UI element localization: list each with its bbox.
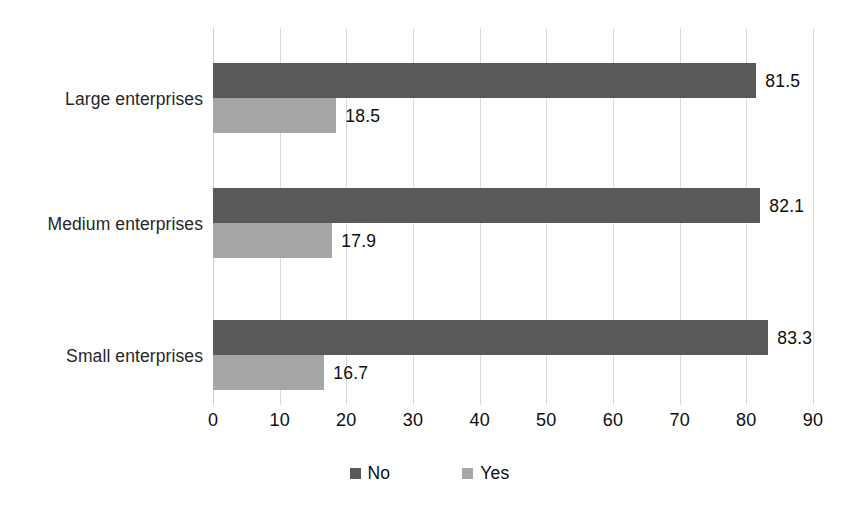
xtick-30: 30 <box>403 410 423 431</box>
xtick-90: 90 <box>803 410 823 431</box>
bar-medium-yes[interactable] <box>213 223 332 258</box>
legend-swatch-no-icon <box>350 468 361 479</box>
bar-large-yes[interactable] <box>213 98 336 133</box>
gridline-90 <box>813 28 814 405</box>
bar-label-large-no: 81.5 <box>756 70 800 91</box>
bar-label-small-no: 83.3 <box>768 327 812 348</box>
category-label-large-enterprises: Large enterprises <box>3 89 203 110</box>
bar-small-yes[interactable] <box>213 355 324 390</box>
value-axis: 0 10 20 30 40 50 60 70 80 90 <box>213 410 813 442</box>
bar-large-no[interactable] <box>213 63 756 98</box>
category-label-medium-enterprises: Medium enterprises <box>3 214 203 235</box>
legend: No Yes <box>0 463 859 484</box>
bar-label-medium-no: 82.1 <box>760 195 804 216</box>
bar-small-no[interactable] <box>213 320 768 355</box>
legend-item-yes[interactable]: Yes <box>462 463 509 484</box>
bar-label-large-yes: 18.5 <box>336 105 380 126</box>
bar-label-small-yes: 16.7 <box>324 362 368 383</box>
xtick-50: 50 <box>536 410 556 431</box>
legend-label-no: No <box>368 463 391 484</box>
legend-swatch-yes-icon <box>462 468 473 479</box>
category-axis: Large enterprises Medium enterprises Sma… <box>0 28 203 405</box>
xtick-40: 40 <box>469 410 489 431</box>
legend-item-no[interactable]: No <box>350 463 391 484</box>
xtick-20: 20 <box>336 410 356 431</box>
xtick-60: 60 <box>603 410 623 431</box>
xtick-10: 10 <box>269 410 289 431</box>
legend-label-yes: Yes <box>480 463 509 484</box>
category-label-small-enterprises: Small enterprises <box>3 346 203 367</box>
xtick-0: 0 <box>208 410 218 431</box>
bar-chart: 81.5 18.5 82.1 17.9 83.3 <box>0 0 859 515</box>
bar-medium-no[interactable] <box>213 188 760 223</box>
xtick-80: 80 <box>736 410 756 431</box>
plot-area: 81.5 18.5 82.1 17.9 83.3 <box>213 28 813 405</box>
bar-label-medium-yes: 17.9 <box>332 230 376 251</box>
xtick-70: 70 <box>669 410 689 431</box>
